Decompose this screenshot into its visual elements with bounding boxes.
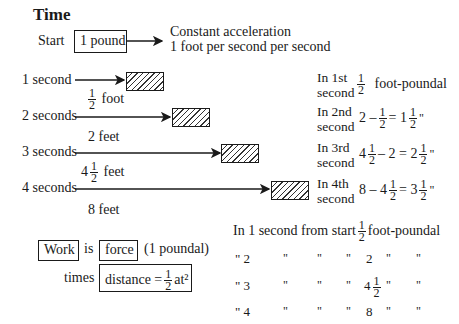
distance-label-3: 412 feet (81, 161, 124, 184)
mass-position-1 (126, 72, 164, 91)
time-label-3: 3 seconds (22, 144, 77, 160)
per-second-label-2: In 2ndsecond (317, 104, 355, 134)
per-second-value-3: 412– 2 = 212" (359, 143, 434, 166)
per-second-label-4: In 4thsecond (317, 176, 355, 206)
cumulative-row-2: " 2 " " " 2 " " (235, 251, 455, 269)
work-box: Work (38, 240, 79, 261)
force-note: (1 poundal) (144, 241, 209, 257)
times-label: times (64, 270, 94, 286)
per-second-label-1: In 1stsecond (317, 70, 355, 100)
per-second-label-3: In 3rdsecond (317, 140, 355, 170)
distance-label-1: 12 foot (86, 88, 124, 111)
cumulative-row-3: " 3 " " " 412 " " (235, 276, 455, 298)
per-second-value-1: 12 foot-poundal (355, 73, 447, 96)
mass-position-2 (172, 108, 210, 127)
is-label: is (84, 241, 93, 257)
time-label-4: 4 seconds (22, 180, 77, 196)
distance-formula-box: distance =12at² (99, 264, 192, 292)
time-label-1: 1 second (22, 72, 71, 88)
per-second-value-2: 2 –12= 112" (359, 107, 424, 130)
distance-label-2: 2 feet (88, 129, 119, 145)
cumulative-header: In 1 second from start12foot-poundal (233, 220, 440, 243)
distance-label-4: 8 feet (88, 202, 119, 218)
time-label-2: 2 seconds (22, 108, 77, 124)
cumulative-row-4: " 4 " " " 8 " " (235, 304, 455, 322)
mass-position-3 (221, 144, 259, 163)
mass-position-4 (271, 181, 309, 200)
per-second-value-4: 8 – 412= 312" (359, 179, 434, 202)
force-box: force (99, 240, 138, 261)
